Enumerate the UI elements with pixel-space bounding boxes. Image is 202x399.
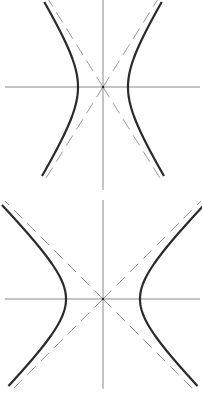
hyperbola-narrow-asymptote [47, 0, 103, 87]
hyperbola-wide-asymptote [103, 299, 194, 390]
hyperbola-narrow-asymptote [103, 87, 161, 180]
hyperbola-narrow-asymptote [45, 87, 103, 180]
hyperbola-wide-left-branch [2, 205, 66, 386]
hyperbola-wide-center-point [102, 298, 104, 300]
hyperbola-wide-asymptote [5, 201, 103, 299]
hyperbola-narrow-left-branch [42, 2, 78, 176]
hyperbola-narrow-right-branch [128, 2, 164, 176]
hyperbola-wide-asymptote [103, 201, 201, 299]
hyperbola-diagrams [0, 0, 202, 399]
hyperbola-wide-asymptote [12, 299, 103, 390]
hyperbola-wide-right-branch [140, 205, 202, 386]
hyperbola-narrow-center-point [102, 86, 104, 88]
hyperbola-narrow-asymptote [103, 0, 159, 87]
